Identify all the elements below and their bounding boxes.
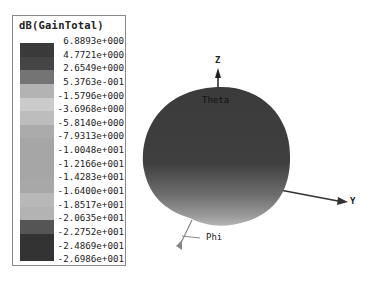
legend-swatch [20,57,54,71]
legend-value: 2.6549e+000 [57,61,127,75]
3d-radiation-pattern-plot[interactable]: Z Y Theta Phi [130,40,371,283]
legend-value: -7.9313e+000 [57,129,127,143]
legend-swatch [20,70,54,84]
radiation-pattern-sphere [143,87,290,226]
legend-swatch [20,179,54,193]
legend-swatch [20,234,54,248]
sphere-plot-svg [130,40,371,283]
legend-value: -2.4869e+001 [57,239,127,253]
color-legend: dB(GainTotal) 6.8893e+0004.7721e+0002.65… [12,15,126,266]
y-axis-arrow-icon [337,197,348,205]
theta-label: Theta [202,95,229,105]
legend-labels: 6.8893e+0004.7721e+0002.6549e+0005.3763e… [57,34,127,266]
legend-swatch [20,166,54,180]
legend-value: -2.0635e+001 [57,211,127,225]
legend-value: -1.2166e+001 [57,157,127,171]
legend-value: -3.6968e+000 [57,102,127,116]
y-axis-line [280,190,338,201]
phi-marker-line [182,236,200,238]
legend-swatch [20,220,54,234]
legend-value: -1.4283e+001 [57,170,127,184]
legend-value: -1.8517e+001 [57,198,127,212]
legend-value: -5.8140e+000 [57,116,127,130]
legend-value: -2.6986e+001 [57,252,127,266]
legend-value: -1.5796e+000 [57,89,127,103]
legend-swatch [20,125,54,139]
legend-title: dB(GainTotal) [19,19,104,31]
legend-swatch [20,248,54,262]
legend-value: 4.7721e+000 [57,48,127,62]
legend-value: -1.6400e+001 [57,184,127,198]
legend-swatch [20,193,54,207]
y-axis-label: Y [350,196,355,206]
legend-swatch [20,138,54,152]
legend-swatch [20,152,54,166]
legend-value: -2.2752e+001 [57,225,127,239]
legend-swatch [20,111,54,125]
z-axis-arrow-icon [215,68,221,78]
phi-label: Phi [206,232,222,242]
legend-swatch [20,84,54,98]
legend-value: 5.3763e-001 [57,75,127,89]
z-axis-label: Z [215,55,220,65]
legend-value: 6.8893e+000 [57,34,127,48]
legend-swatch [20,98,54,112]
legend-color-bar [20,43,54,261]
phi-arrow-icon [176,240,182,250]
legend-swatch [20,207,54,221]
legend-value: -1.0048e+001 [57,143,127,157]
legend-swatch [20,43,54,57]
